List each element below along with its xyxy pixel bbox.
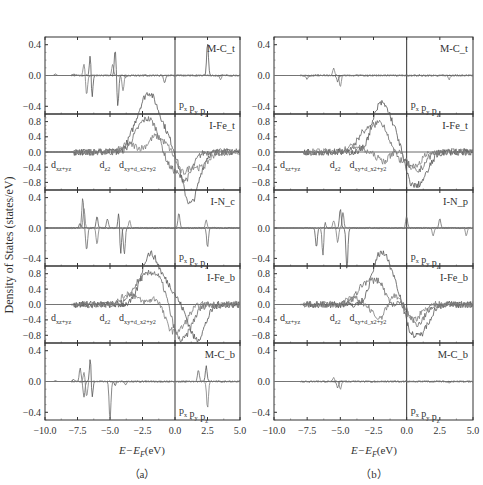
panel-i-fe-t: 0.80.40.0−0.4−0.8I-Fe_tdxz+yzdz2dxy+d_x2… (252, 100, 473, 190)
subfigure-a: 0.40.0−0.4M-C_tpx py pz0.80.40.0−0.4−0.8… (23, 37, 246, 436)
dos-curve-p-x (45, 360, 240, 397)
y-tick-label: 0.4 (29, 284, 42, 295)
y-tick-label: 0.0 (258, 223, 271, 234)
dos-curve-p-z (45, 64, 240, 93)
panel-i-n-c: 0.40.0−0.4I-N_cpx py pz (23, 190, 240, 270)
panel-m-c-t: 0.40.0−0.4M-C_tpx py pz (23, 37, 240, 118)
panel-annotation: dz2 (100, 159, 111, 172)
panel-i-fe-t: 0.80.40.0−0.4−0.8I-Fe_tdxz+yzdz2dxy+d_x2… (23, 93, 240, 205)
panel-name-label: I-Fe_b (207, 272, 235, 283)
x-axis-label-a: E−EF(eV) (118, 444, 165, 459)
panel-annotation: dxy+d_x2+y2 (119, 159, 156, 172)
panel-name-label: I-Fe_t (442, 120, 468, 131)
panel-annotation: dxz+yz (280, 159, 300, 172)
x-tick-label: −5.0 (331, 425, 349, 436)
y-tick-label: 0.8 (29, 116, 42, 127)
x-tick-label: 5.0 (467, 425, 480, 436)
x-tick-label: −10.0 (33, 425, 56, 436)
y-tick-label: −0.4 (252, 407, 270, 418)
panel-annotation: dxy+d_x2+y2 (350, 159, 387, 172)
y-tick-label: 0.0 (29, 147, 42, 158)
subfigure-b: 0.40.0−0.4M-C_tpx py pz0.80.40.0−0.4−0.8… (252, 37, 479, 436)
panel-name-label: I-N_c (211, 196, 236, 207)
panel-annotation: dz2 (330, 312, 341, 325)
panel-name-label: M-C_b (205, 349, 235, 360)
dos-curve-p-x (45, 214, 240, 254)
y-tick-label: 0.4 (258, 192, 271, 203)
y-tick-label: 0.8 (258, 116, 271, 127)
dos-curve-p-z (274, 68, 473, 86)
y-tick-label: 0.0 (29, 376, 42, 387)
x-tick-label: −7.5 (68, 425, 86, 436)
y-tick-label: −0.4 (252, 314, 270, 325)
y-tick-label: 0.0 (258, 299, 271, 310)
y-tick-label: 0.0 (29, 223, 42, 234)
y-tick-label: 0.4 (29, 39, 42, 50)
dos-curve-d-xy-d-x2-y2 (45, 292, 240, 335)
panel-annotation: dz2 (330, 159, 341, 172)
y-tick-label: 0.8 (29, 268, 42, 279)
x-tick-label: 2.5 (434, 425, 447, 436)
panel-name-label: M-C_b (438, 349, 468, 360)
panel-annotation: dxy+d_x2+y2 (350, 312, 387, 325)
y-tick-label: −0.8 (23, 177, 41, 188)
x-tick-label: 5.0 (234, 425, 247, 436)
x-axis-label-b: E−EF(eV) (350, 444, 397, 459)
dos-curve-p-y (274, 213, 473, 256)
panel-annotation: dxz+yz (51, 312, 71, 325)
panel-i-n-p: 0.40.0−0.4I-N_ppx py pz (252, 190, 473, 270)
y-axis-label: Density of States (states/eV) (2, 177, 16, 314)
panel-annotation: dxz+yz (51, 159, 71, 172)
panel-m-c-b: 0.40.0−0.4M-C_bpx py pz (252, 343, 473, 424)
svg-text:E−EF(eV): E−EF(eV) (350, 444, 397, 459)
y-tick-label: 0.4 (29, 192, 42, 203)
dos-curve-p-z (45, 209, 240, 244)
panel-annotation: px py pz (179, 405, 208, 424)
y-tick-label: 0.4 (258, 131, 271, 142)
y-tick-label: −0.8 (23, 330, 41, 341)
y-tick-label: −0.4 (252, 101, 270, 112)
panel-name-label: M-C_t (440, 43, 468, 54)
y-tick-label: −0.4 (23, 162, 41, 173)
panel-m-c-t: 0.40.0−0.4M-C_tpx py pz (252, 37, 473, 118)
y-tick-label: −0.4 (23, 407, 41, 418)
dos-figure: 0.40.0−0.4M-C_tpx py pz0.80.40.0−0.4−0.8… (0, 0, 483, 485)
dos-curve-p-z (274, 221, 473, 243)
subfigure-label-a: （a） (129, 468, 156, 480)
y-tick-label: 0.0 (29, 70, 42, 81)
x-tick-label: −10.0 (262, 425, 285, 436)
y-tick-label: 0.4 (29, 131, 42, 142)
panel-annotation: px py pz (411, 99, 440, 118)
svg-text:E−EF(eV): E−EF(eV) (118, 444, 165, 459)
panel-annotation: px py pz (179, 99, 208, 118)
y-tick-label: −0.4 (23, 314, 41, 325)
y-tick-label: 0.0 (29, 299, 42, 310)
x-tick-label: −2.5 (133, 425, 151, 436)
y-tick-label: 0.8 (258, 268, 271, 279)
panel-name-label: I-Fe_b (440, 272, 468, 283)
panel-annotation: dz2 (100, 312, 111, 325)
x-tick-label: −2.5 (364, 425, 382, 436)
y-tick-label: 0.4 (258, 39, 271, 50)
dos-curve-p-z (45, 372, 240, 407)
panel-name-label: I-Fe_t (209, 120, 235, 131)
panel-annotation: px py pz (179, 251, 208, 270)
y-tick-label: −0.8 (252, 177, 270, 188)
subfigure-label-b: （b） (360, 468, 388, 480)
panel-annotation: dxy+d_x2+y2 (119, 312, 156, 325)
y-tick-label: −0.4 (252, 162, 270, 173)
dos-curve-p-x (274, 210, 473, 269)
y-tick-label: 0.0 (258, 70, 271, 81)
y-tick-label: −0.8 (252, 330, 270, 341)
x-tick-label: 0.0 (400, 425, 413, 436)
y-tick-label: −0.4 (23, 253, 41, 264)
dos-curve-p-z (274, 377, 473, 389)
x-tick-label: −7.5 (298, 425, 316, 436)
panel-name-label: I-N_p (443, 196, 468, 207)
y-tick-label: 0.4 (258, 345, 271, 356)
y-tick-label: 0.0 (258, 376, 271, 387)
y-tick-label: −0.4 (252, 253, 270, 264)
dos-curve-p-y (45, 368, 240, 419)
panel-name-label: M-C_t (207, 43, 235, 54)
panel-annotation: dxz+yz (280, 312, 300, 325)
